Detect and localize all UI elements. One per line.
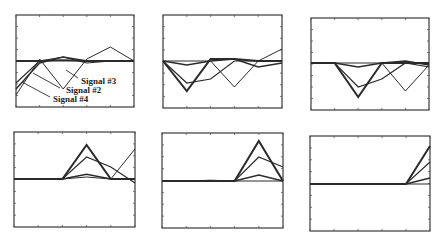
arrow-signal3 <box>66 70 78 78</box>
series-line-signal-3 <box>163 49 282 87</box>
series-line-signal-1 <box>311 63 429 97</box>
series-line-signal-1 <box>14 145 135 179</box>
series-line-signal-3 <box>311 63 429 91</box>
plot-panel-2 <box>163 15 282 108</box>
plot-panel-6 <box>310 136 430 231</box>
label-signal-4: Signal #4 <box>53 94 89 104</box>
panels-group <box>14 15 430 231</box>
annotation-group: Signal #3 Signal #2 Signal #4 <box>22 70 117 104</box>
plot-panel-4 <box>14 132 135 227</box>
signal-plots-figure: Signal #3 Signal #2 Signal #4 <box>0 0 446 241</box>
arrow-signal4 <box>22 82 50 97</box>
plot-panel-5 <box>162 133 283 228</box>
series-line-signal-2 <box>162 157 283 181</box>
series-line-signal-3 <box>14 149 135 179</box>
series-line-signal-1 <box>162 141 283 181</box>
plot-panel-3 <box>311 18 429 110</box>
series-line-signal-2 <box>311 63 429 87</box>
